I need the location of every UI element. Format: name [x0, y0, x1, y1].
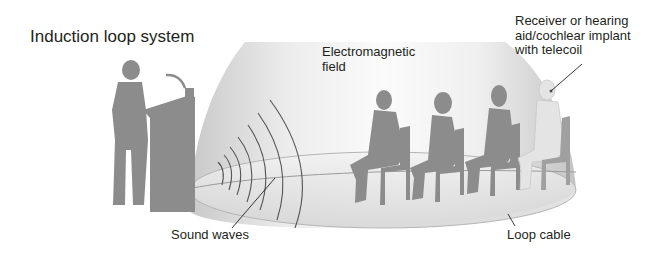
receiver-label: Receiver or hearing aid/cochlear implant…	[515, 14, 631, 58]
receiver-leader-line	[551, 64, 582, 91]
loop-cable-label: Loop cable	[507, 228, 571, 243]
sound-waves-label: Sound waves	[171, 228, 249, 243]
electromagnetic-field-label: Electromagnetic field	[322, 45, 415, 74]
receiver-label-line: with telecoil	[515, 43, 631, 58]
electromagnetic-field-label-line: field	[322, 60, 415, 75]
receiver-label-line: Receiver or hearing	[515, 14, 631, 29]
receiver-label-line: aid/cochlear implant	[515, 29, 631, 44]
diagram-title: Induction loop system	[30, 27, 194, 46]
electromagnetic-field-label-line: Electromagnetic	[322, 45, 415, 60]
microphone-icon	[166, 75, 185, 88]
